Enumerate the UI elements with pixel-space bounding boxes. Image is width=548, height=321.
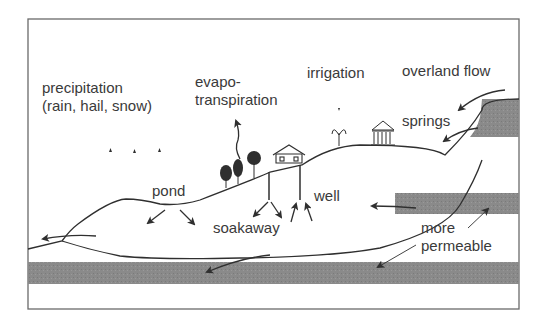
precipitation-drops: [109, 148, 161, 153]
temple-icon: [371, 121, 395, 145]
evapotranspiration-arrow: [236, 121, 240, 159]
label-precipitation-types: (rain, hail, snow): [42, 97, 152, 114]
permeable-layer-middle: [395, 193, 519, 214]
well-arrow-left: [291, 204, 296, 222]
label-more: more: [421, 219, 455, 236]
label-irrigation: irrigation: [307, 64, 365, 81]
pond-arrow-left: [148, 210, 165, 223]
tree-icon: [220, 151, 261, 188]
permeable-layer-bottom: [28, 262, 519, 284]
raindrop-icon: [338, 108, 340, 111]
soakaway-arrow-right: [271, 202, 281, 217]
label-pond: pond: [152, 182, 185, 199]
label-springs: springs: [402, 112, 450, 129]
label-evapo: evapo-: [195, 73, 241, 90]
fountain-icon: [332, 130, 346, 146]
label-transpiration: transpiration: [195, 91, 278, 108]
label-soakaway: soakaway: [213, 219, 280, 236]
label-well: well: [314, 187, 340, 204]
label-permeable: permeable: [421, 237, 492, 254]
house-icon: [273, 145, 305, 163]
outflow-arrow: [43, 235, 96, 239]
label-precipitation: precipitation: [42, 79, 123, 96]
well-arrow-right: [306, 204, 312, 221]
hydrology-diagram: [0, 0, 548, 321]
label-overland-flow: overland flow: [402, 62, 490, 79]
pond-arrow-right: [180, 210, 194, 224]
soakaway-arrow-left: [254, 202, 268, 216]
